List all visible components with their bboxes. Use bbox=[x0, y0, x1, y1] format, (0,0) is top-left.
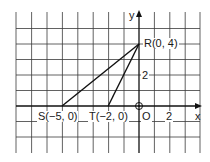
y-axis-arrow-icon bbox=[136, 10, 142, 17]
x-axis-arrow-icon bbox=[195, 103, 202, 109]
point-label-S: S(−5, 0) bbox=[37, 111, 78, 122]
x-axis-label: x bbox=[194, 111, 202, 122]
x-tick-label-2: 2 bbox=[165, 111, 173, 122]
origin-label: O bbox=[141, 111, 152, 122]
y-tick-label-2: 2 bbox=[141, 70, 149, 81]
point-label-R: R(0, 4) bbox=[143, 38, 179, 49]
coordinate-plane bbox=[0, 0, 210, 162]
y-axis-label: y bbox=[128, 10, 136, 21]
point-label-T: T(−2, 0) bbox=[88, 111, 129, 122]
y-axis bbox=[136, 10, 142, 153]
grid-vertical-lines bbox=[16, 12, 200, 153]
